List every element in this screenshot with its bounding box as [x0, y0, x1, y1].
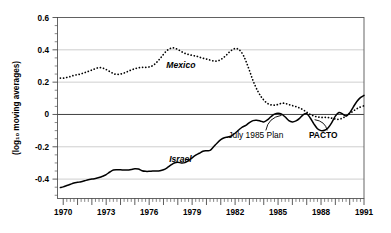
y-tick-label: 0.4 [38, 46, 50, 55]
y-axis-title-text: (log₁₀ moving averages) [12, 61, 21, 155]
chart-figure: MexicoIsrael July 1985 PlanPACTO 1970197… [0, 0, 391, 233]
x-tick-label: 1988 [312, 208, 331, 217]
series-label-mexico: Mexico [166, 60, 195, 70]
series-label-israel: Israel [169, 154, 192, 164]
y-tick-label: 0 [44, 110, 49, 119]
x-tick-label: 1985 [269, 208, 288, 217]
x-tick-label: 1991 [355, 208, 374, 217]
y-tick-label: 0.6 [38, 14, 50, 23]
y-axis-title: (log₁₀ moving averages) [12, 61, 21, 155]
x-tick-label: 1982 [226, 208, 245, 217]
y-tick-label: 0.2 [38, 78, 50, 87]
y-tick-label: -0.2 [35, 143, 50, 152]
x-tick-label: 1976 [140, 208, 159, 217]
x-tick-label: 1973 [97, 208, 116, 217]
annotation-label-july-1985-plan: July 1985 Plan [228, 130, 283, 140]
chart-canvas: MexicoIsrael July 1985 PlanPACTO 1970197… [0, 0, 391, 233]
annotation-label-pacto: PACTO [309, 130, 338, 140]
y-tick-label: -0.4 [35, 175, 50, 184]
x-tick-label: 1970 [54, 208, 73, 217]
x-tick-label: 1979 [183, 208, 202, 217]
